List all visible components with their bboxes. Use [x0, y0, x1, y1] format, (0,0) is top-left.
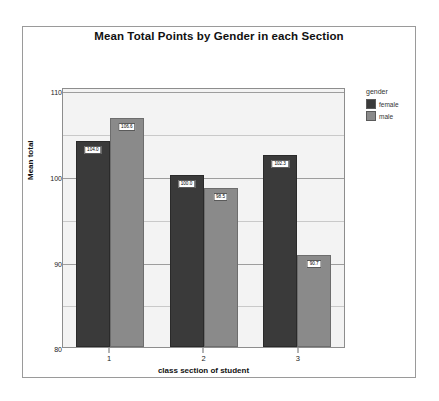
legend-label-male: male: [379, 113, 393, 120]
chart-title: Mean Total Points by Gender in each Sect…: [22, 30, 416, 42]
legend-item-female[interactable]: female: [366, 99, 422, 109]
legend-title: gender: [366, 88, 422, 95]
bar-value-label: 100.0: [178, 180, 196, 188]
y-axis: 110 100 90 80: [34, 88, 62, 350]
bar-value-label: 98.5: [213, 193, 228, 201]
x-tick-label-3: 3: [251, 348, 345, 368]
bar-male-2[interactable]: 98.5: [204, 188, 238, 347]
legend-label-female: female: [379, 101, 399, 108]
bar-group-section-2: 100.0 98.5: [157, 89, 251, 347]
bars-layer: 104.0 106.6 100.0 98.5 102.3 90.: [63, 89, 344, 347]
bar-group-section-3: 102.3 90.7: [250, 89, 344, 347]
y-tick-label-110: 110: [51, 89, 62, 96]
y-tick-label-80: 80: [54, 346, 62, 353]
legend: gender female male: [366, 88, 422, 123]
x-tick-label-1: 1: [62, 348, 156, 368]
bar-female-2[interactable]: 100.0: [170, 175, 204, 347]
bar-value-label: 106.6: [118, 123, 136, 131]
chart-screenshot: Mean Total Points by Gender in each Sect…: [0, 0, 439, 401]
bar-value-label: 102.3: [271, 160, 289, 168]
x-axis-title: class section of student: [62, 366, 345, 375]
bar-value-label: 90.7: [307, 260, 322, 268]
x-axis: 1 2 3: [62, 348, 345, 368]
y-axis-title: Mean total: [26, 140, 35, 180]
bar-group-section-1: 104.0 106.6: [63, 89, 157, 347]
legend-item-male[interactable]: male: [366, 111, 422, 121]
y-tick-label-90: 90: [54, 261, 62, 268]
bar-male-1[interactable]: 106.6: [110, 118, 144, 347]
legend-swatch-male-icon: [366, 111, 376, 121]
bar-value-label: 104.0: [84, 146, 102, 154]
bar-male-3[interactable]: 90.7: [297, 255, 331, 347]
bar-female-3[interactable]: 102.3: [263, 155, 297, 347]
y-tick-label-100: 100: [50, 175, 62, 182]
plot-area: 104.0 106.6 100.0 98.5 102.3 90.: [62, 88, 345, 348]
x-tick-label-2: 2: [156, 348, 250, 368]
bar-female-1[interactable]: 104.0: [76, 141, 110, 347]
legend-swatch-female-icon: [366, 99, 376, 109]
